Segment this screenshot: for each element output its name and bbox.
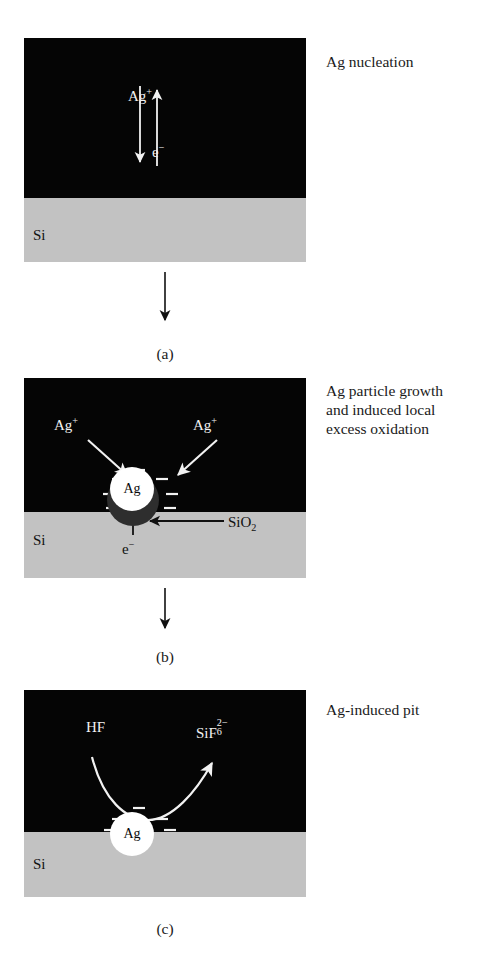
panel-c-caption: (c) [115,920,215,938]
panel-c-solution-layer [24,690,306,832]
side-caption-b: Ag particle growth and induced local exc… [326,381,502,439]
panel-a-electron-label: e− [152,143,164,160]
side-caption-b-line-3: excess oxidation [326,419,502,438]
panel-c-silver-particle-label: Ag [123,826,140,842]
panel-b-caption: (b) [115,648,215,666]
panel-a-substrate-label: Si [33,228,46,243]
side-caption-b-line-1: Ag particle growth [326,381,502,400]
panel-b-solution-layer [24,378,306,512]
panel-a-solution-layer [24,38,306,198]
panel-a-silver-ion-label: Ag+ [128,87,152,104]
panel-b-silver-ion-label-right: Ag+ [193,416,217,433]
process-diagram: Si Ag+ e− (a) Ag nucleation Si Ag Ag+ Ag… [0,0,502,977]
panel-c-substrate-label: Si [33,857,46,872]
side-caption-a-line-1: Ag nucleation [326,52,502,71]
panel-a-substrate-layer [24,198,306,262]
side-caption-c-line-1: Ag-induced pit [326,700,502,719]
side-caption-a: Ag nucleation [326,52,502,71]
panel-b-silver-ion-label-left: Ag+ [54,416,78,433]
side-caption-b-line-2: and induced local [326,400,502,419]
panel-c: Si Ag HF SiF2−6 [24,690,306,897]
panel-b-silver-particle-label: Ag [123,481,140,497]
panel-c-hydrofluoric-acid-label: HF [86,720,105,735]
panel-b-substrate-label: Si [33,533,46,548]
panel-b-silicon-dioxide-label: SiO2 [228,515,256,533]
side-caption-c: Ag-induced pit [326,700,502,719]
panel-b-substrate-layer [24,512,306,578]
panel-c-hexafluorosilicate-label: SiF2−6 [196,720,228,741]
panel-c-silver-particle: Ag [110,812,154,856]
panel-b-silver-particle: Ag [110,467,154,511]
panel-b-electron-label: e− [122,540,134,557]
panel-a: Si Ag+ e− [24,38,306,262]
panel-b: Si Ag Ag+ Ag+ e− SiO2 [24,378,306,578]
panel-c-substrate-layer [24,832,306,897]
panel-a-caption: (a) [115,345,215,363]
